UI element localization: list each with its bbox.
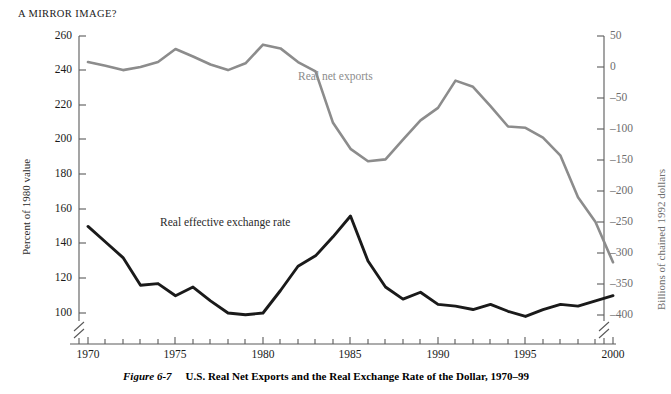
- right-tick-label-m400: –400: [610, 308, 650, 320]
- right-tick-label-m300: –300: [610, 246, 650, 258]
- x-tick-label-2000: 2000: [590, 348, 636, 360]
- x-tick-label-1970: 1970: [65, 348, 111, 360]
- right-axis-ticks: [597, 36, 604, 315]
- figure-page: A MIRROR IMAGE?: [0, 0, 671, 394]
- annotation-real-effective-exchange-rate: Real effective exchange rate: [160, 216, 290, 228]
- left-tick-label-240: 240: [38, 63, 72, 75]
- figure-caption-text: U.S. Real Net Exports and the Real Excha…: [186, 370, 529, 382]
- figure-caption: Figure 6-7U.S. Real Net Exports and the …: [123, 370, 643, 382]
- right-tick-label-0: 0: [610, 60, 650, 72]
- left-tick-label-120: 120: [38, 271, 72, 283]
- annotation-real-net-exports: Real net exports: [298, 70, 373, 82]
- left-tick-label-220: 220: [38, 98, 72, 110]
- right-axis-title: Billions of chained 1992 dollars: [655, 169, 667, 310]
- left-axis-break: [74, 322, 84, 338]
- right-axis-break: [599, 322, 609, 338]
- left-tick-label-100: 100: [38, 306, 72, 318]
- x-tick-label-1975: 1975: [152, 348, 198, 360]
- left-tick-label-160: 160: [38, 202, 72, 214]
- chart-svg: [0, 0, 671, 394]
- right-tick-label-50: 50: [610, 29, 650, 41]
- x-axis-ticks: [88, 337, 613, 344]
- x-tick-label-1985: 1985: [327, 348, 373, 360]
- left-tick-label-260: 260: [38, 29, 72, 41]
- right-tick-label-m350: –350: [610, 277, 650, 289]
- right-tick-label-m50: –50: [610, 91, 650, 103]
- axes: [70, 36, 616, 344]
- x-tick-label-1990: 1990: [415, 348, 461, 360]
- left-axis-ticks: [79, 36, 86, 313]
- left-tick-label-200: 200: [38, 132, 72, 144]
- right-tick-label-m100: –100: [610, 122, 650, 134]
- left-axis-title: Percent of 1980 value: [20, 159, 32, 255]
- series-line-real-effective-exchange-rate: [88, 216, 613, 316]
- x-tick-label-1995: 1995: [502, 348, 548, 360]
- left-tick-label-140: 140: [38, 236, 72, 248]
- right-tick-label-m250: –250: [610, 215, 650, 227]
- right-tick-label-m200: –200: [610, 184, 650, 196]
- right-tick-label-m150: –150: [610, 153, 650, 165]
- chart-plot-area: [0, 0, 671, 394]
- figure-number: Figure 6-7: [123, 370, 172, 382]
- x-tick-label-1980: 1980: [240, 348, 286, 360]
- left-tick-label-180: 180: [38, 167, 72, 179]
